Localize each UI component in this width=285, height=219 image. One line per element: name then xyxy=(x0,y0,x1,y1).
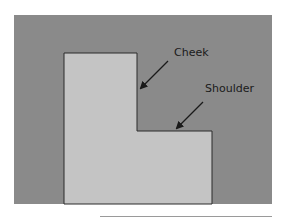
shoulder-label: Shoulder xyxy=(205,82,254,95)
tenon-shape xyxy=(64,53,212,204)
divider-line xyxy=(100,216,272,217)
shoulder-arrow xyxy=(177,102,203,128)
joint-diagram xyxy=(0,0,285,219)
cheek-label: Cheek xyxy=(174,46,209,59)
cheek-arrow xyxy=(141,61,168,88)
